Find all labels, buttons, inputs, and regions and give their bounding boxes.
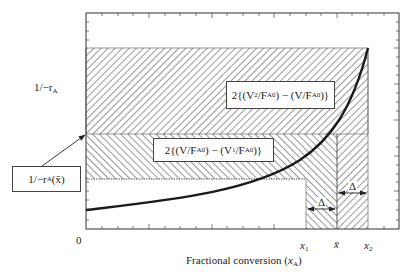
upper-label-part: ) − (V/F [275,89,311,101]
x-axis-label-close: ) [298,254,302,266]
x1-sub: 1 [305,245,309,253]
upper-label-part: /F [258,89,267,101]
y-axis-label-sub: A [52,87,57,95]
x-axis-label: Fractional conversion (xA) [186,255,302,268]
upper-label-sub: A0 [312,91,321,99]
callout-box: 1/−rA(x̄) [12,166,81,192]
lower-label-part: /F [235,144,244,156]
levenspiel-plot [0,0,412,272]
upper-label-part: )} [320,89,329,101]
x2-sub: 2 [369,245,373,253]
xbar-label: x̄ [334,239,339,250]
callout-text: 1/−r [28,173,46,185]
upper-label-sub: A0 [267,91,276,99]
y-axis-label-text: 1/−r [34,81,52,93]
xbar-text: x̄ [334,238,339,250]
y-axis-label: 1/−rA [34,82,58,95]
lower-label-part: ) − (V [205,144,232,156]
lower-label-part: )} [253,144,262,156]
callout-arrow [42,135,85,166]
upper-region-label: 2{(V2/FA0) − (V/FA0)} [226,81,335,109]
origin-label: 0 [76,235,82,246]
upper-label-part: 2{(V [232,89,254,101]
x1-label: x1 [300,240,308,253]
callout-suffix: (x̄) [52,173,65,185]
delta-label-upper: Δ [348,181,357,192]
lower-label-part: 2{(V/F [165,144,197,156]
delta-label-lower: Δ [317,197,326,208]
lower-label-sub: A0 [196,146,205,154]
x-axis-label-text: Fractional conversion ( [186,254,288,266]
lower-label-sub: A0 [245,146,254,154]
lower-region-label: 2{(V/FA0) − (V1/FA0)} [153,138,274,162]
x2-label: x2 [364,240,372,253]
